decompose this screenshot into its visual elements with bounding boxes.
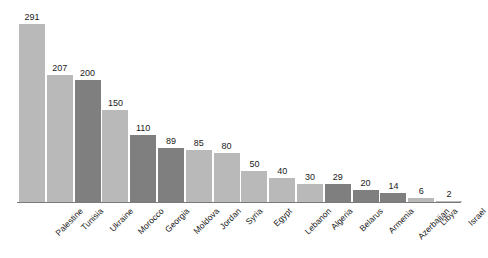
category-label-moldova: Moldova [191,206,221,236]
bar-slot: 150 [102,6,128,202]
category-label-morocco: Morocco [136,206,166,236]
bar-slot: 85 [186,6,212,202]
bar-belarus[interactable] [325,184,351,202]
bar-moldova[interactable] [158,148,184,202]
bar-slot: 200 [75,6,101,202]
bar-slot: 30 [297,6,323,202]
bar-azerbaijan[interactable] [380,193,406,202]
bar-slot: 40 [269,6,295,202]
bar-slot: 2 [436,6,462,202]
bar-armenia[interactable] [353,190,379,202]
bar-slot: 80 [214,6,240,202]
bar-slot: 50 [241,6,267,202]
bar-lebanon[interactable] [269,178,295,202]
category-label-armenia: Armenia [386,206,415,235]
bar-jordan[interactable] [186,150,212,202]
bar-algeria[interactable] [297,184,323,202]
bar-palestine[interactable] [19,24,45,202]
category-label-georgia: Georgia [163,206,191,234]
bar-tunisia[interactable] [47,75,73,202]
bar-syria[interactable] [214,153,240,202]
value-label-ukraine: 200 [71,68,105,78]
bar-slot: 291 [19,6,45,202]
bar-ukraine[interactable] [75,80,101,202]
category-label-egypt: Egypt [272,206,294,228]
bar-slot: 14 [380,6,406,202]
value-label-israel: 2 [432,189,466,199]
bar-egypt[interactable] [241,171,267,202]
bar-morocco[interactable] [102,110,128,202]
value-label-palestine: 291 [15,12,49,22]
category-label-ukraine: Ukraine [107,206,135,234]
category-axis: PalestineTunisiaUkraineMoroccoGeorgiaMol… [0,202,467,258]
value-label-morocco: 150 [98,98,132,108]
bar-slot: 6 [408,6,434,202]
category-label-israel: Israel [466,206,488,228]
bar-slot: 29 [325,6,351,202]
category-label-syria: Syria [243,206,264,227]
bar-slot: 207 [47,6,73,202]
bar-slot: 89 [158,6,184,202]
category-label-algeria: Algeria [329,206,355,232]
value-label-georgia: 110 [126,123,160,133]
bar-slot: 110 [130,6,156,202]
category-label-belarus: Belarus [357,206,384,233]
bar-slot: 20 [353,6,379,202]
category-label-jordan: Jordan [217,206,242,231]
value-label-syria: 80 [210,141,244,151]
bar-georgia[interactable] [130,135,156,202]
category-label-lebanon: Lebanon [303,206,333,236]
plot-area: 29120720015011089858050403029201462 [19,6,463,202]
